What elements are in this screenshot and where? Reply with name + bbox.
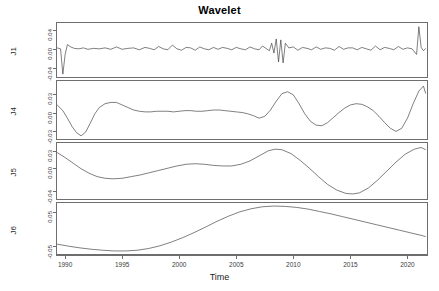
panel-label-j4: J4 [9,102,18,116]
x-tick-label: 1990 [50,261,80,268]
line-j4 [57,86,426,136]
y-tick-label: -0.05 [47,245,53,275]
x-axis-line [56,255,428,256]
panel-j1 [56,22,428,78]
y-tick [53,30,56,31]
x-tick [293,255,294,259]
panel-label-j5: J5 [9,163,18,177]
x-tick [179,255,180,259]
line-j5 [57,147,426,193]
y-tick [53,212,56,213]
x-tick-label: 2000 [164,261,194,268]
line-j6 [57,206,426,251]
chart-title: Wavelet [0,4,439,16]
y-tick [53,191,56,192]
y-tick [53,131,56,132]
x-tick [122,255,123,259]
panel-label-j6: J6 [9,220,18,234]
panel-j6 [56,202,428,255]
x-tick [65,255,66,259]
y-tick-label: 0.05 [47,211,53,241]
x-tick-label: 2010 [278,261,308,268]
x-axis-title: Time [0,272,439,282]
y-tick [53,151,56,152]
y-tick [53,68,56,69]
x-tick [407,255,408,259]
x-tick-label: 2020 [392,261,422,268]
y-tick-label: 0.03 [47,150,53,180]
x-tick-label: 1995 [107,261,137,268]
y-tick-label: 0.04 [47,29,53,59]
series-j6 [57,203,427,254]
x-tick [236,255,237,259]
x-tick-label: 2005 [221,261,251,268]
x-tick [350,255,351,259]
y-tick [53,94,56,95]
y-tick [53,113,56,114]
x-tick-label: 2015 [335,261,365,268]
y-tick [53,49,56,50]
series-j1 [57,23,427,77]
line-j1 [57,27,426,74]
panel-j5 [56,142,428,200]
series-j4 [57,81,427,139]
y-tick [53,168,56,169]
panel-j4 [56,80,428,140]
chart-root: Wavelet 1990199520002005201020152020 Tim… [0,0,439,291]
series-j5 [57,143,427,199]
panel-label-j1: J1 [9,42,18,56]
y-tick [53,246,56,247]
y-tick-label: 0.03 [47,93,53,123]
